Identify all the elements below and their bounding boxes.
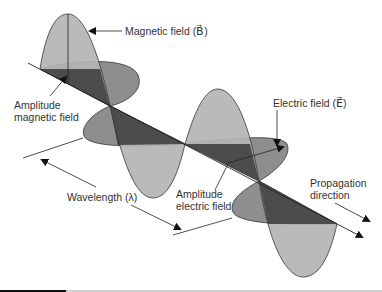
propagation-direction-arrow bbox=[335, 203, 369, 221]
amplitude-magnetic-label-2: magnetic field bbox=[14, 111, 79, 123]
amplitude-electric-label-2: electric field bbox=[176, 200, 231, 212]
propagation-label-1: Propagation bbox=[310, 177, 367, 189]
amplitude-electric-label-1: Amplitude bbox=[176, 188, 223, 200]
magnetic-field-label: Magnetic field (B⃗) bbox=[125, 25, 208, 37]
wavelength-arrow-left bbox=[42, 160, 96, 187]
amplitude-electric-pointer bbox=[215, 164, 228, 190]
wavelength-tick-left bbox=[23, 138, 83, 158]
electric-field-label: Electric field (E⃗) bbox=[273, 97, 347, 109]
wavelength-tick-right bbox=[173, 218, 232, 235]
wavelength-arrow-right bbox=[131, 205, 180, 229]
propagation-label-2: direction bbox=[310, 189, 350, 201]
amplitude-magnetic-label-1: Amplitude bbox=[14, 99, 61, 111]
em-wave-diagram bbox=[0, 0, 382, 292]
wavelength-label: Wavelength (λ) bbox=[67, 191, 137, 203]
amplitude-magnetic-pointer bbox=[50, 77, 66, 96]
